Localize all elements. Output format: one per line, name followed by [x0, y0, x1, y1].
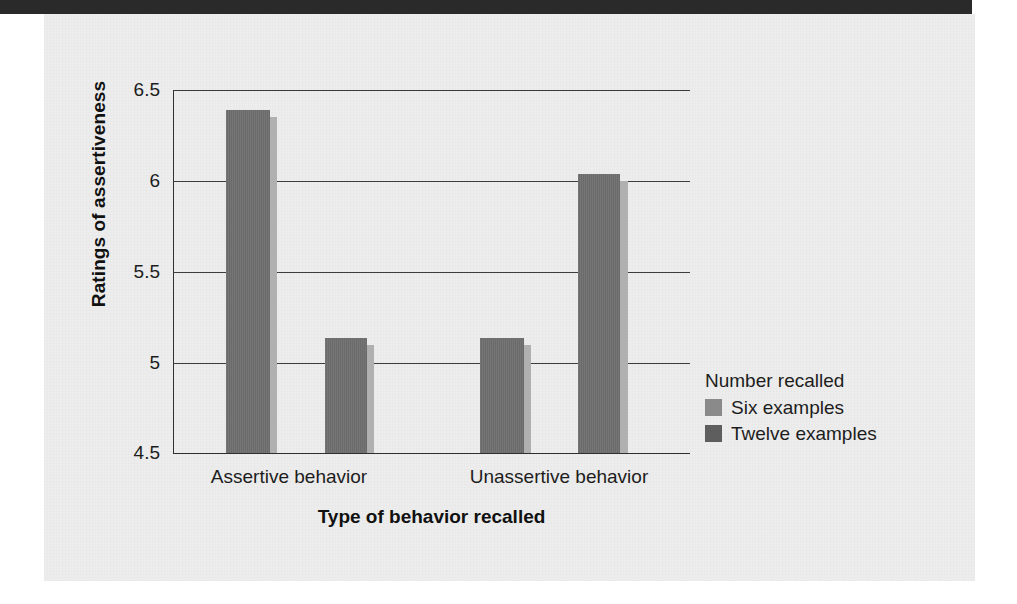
bar-assertive-twelve[interactable]	[325, 338, 367, 453]
legend-swatch-twelve-examples	[705, 425, 722, 442]
page-root: Ratings of assertiveness 6.5 6 5.5 5 4.5	[0, 0, 1017, 604]
gridline-6.5	[173, 90, 690, 91]
chart-legend: Number recalled Six examples Twelve exam…	[705, 369, 945, 447]
bar-shadow-unassertive-twelve	[620, 181, 628, 453]
y-tick-label-6: 6	[90, 171, 160, 190]
bar-shadow-assertive-six	[270, 117, 277, 453]
y-tick-label-5.5: 5.5	[90, 262, 160, 281]
legend-swatch-six-examples	[705, 399, 722, 416]
x-category-label-assertive: Assertive behavior	[179, 467, 399, 486]
plot-area	[173, 90, 690, 453]
bar-chart: Ratings of assertiveness 6.5 6 5.5 5 4.5	[44, 14, 975, 581]
y-tick-label-4.5: 4.5	[90, 443, 160, 462]
legend-label-twelve-examples: Twelve examples	[731, 422, 877, 446]
bar-assertive-six[interactable]	[226, 110, 270, 453]
y-tick-label-5: 5	[90, 353, 160, 372]
bar-shadow-assertive-twelve	[367, 345, 374, 453]
bar-shadow-unassertive-six	[524, 345, 531, 453]
x-axis-baseline	[173, 453, 690, 454]
legend-item-twelve-examples[interactable]: Twelve examples	[705, 422, 945, 446]
bar-unassertive-twelve[interactable]	[578, 174, 620, 453]
x-category-label-unassertive: Unassertive behavior	[434, 467, 684, 486]
x-axis-title: Type of behavior recalled	[173, 506, 690, 528]
legend-title: Number recalled	[705, 369, 945, 393]
legend-label-six-examples: Six examples	[731, 396, 844, 420]
header-black-bar	[0, 0, 972, 14]
bar-unassertive-six[interactable]	[480, 338, 524, 453]
y-tick-label-6.5: 6.5	[90, 80, 160, 99]
figure-panel: Ratings of assertiveness 6.5 6 5.5 5 4.5	[44, 14, 975, 581]
legend-item-six-examples[interactable]: Six examples	[705, 396, 945, 420]
